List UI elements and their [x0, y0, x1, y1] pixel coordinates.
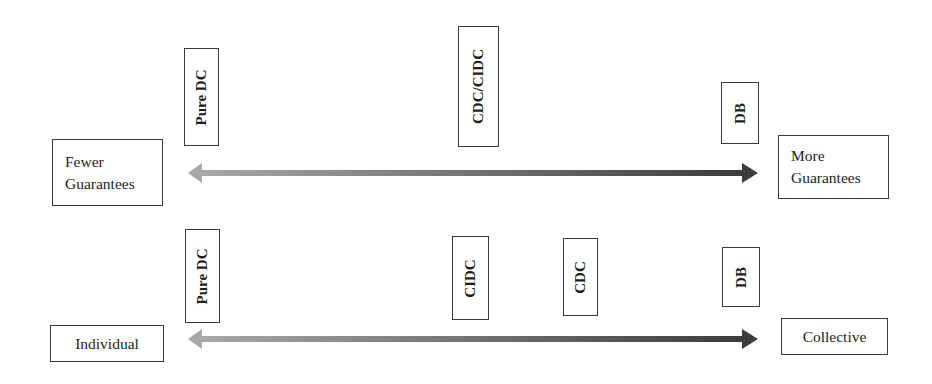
marker-db-bottom: DB	[722, 247, 760, 307]
fewer-guarantees-label: Fewer Guarantees	[52, 139, 163, 206]
collective-label: Collective	[781, 318, 888, 355]
marker-text: Pure DC	[194, 248, 211, 304]
label-text: Individual	[75, 333, 139, 355]
marker-text: DB	[732, 103, 749, 124]
marker-cdc-cidc-top: CDC/CIDC	[458, 26, 499, 147]
marker-pure-dc-bottom: Pure DC	[185, 229, 220, 323]
individual-label: Individual	[50, 325, 164, 362]
marker-text: Pure DC	[193, 69, 210, 125]
marker-db-top: DB	[721, 82, 759, 144]
marker-cdc-bottom: CDC	[563, 238, 598, 316]
marker-text: DB	[733, 267, 750, 288]
marker-pure-dc-top: Pure DC	[184, 48, 219, 146]
label-line-1: Fewer	[65, 151, 162, 173]
more-guarantees-label: More Guarantees	[778, 135, 889, 199]
top-double-arrow	[188, 163, 758, 183]
label-line-2: Guarantees	[791, 167, 888, 189]
marker-text: CIDC	[462, 259, 479, 297]
marker-text: CDC/CIDC	[470, 49, 487, 124]
marker-text: CDC	[572, 261, 589, 294]
label-text: Collective	[803, 326, 867, 348]
bottom-double-arrow	[188, 329, 758, 349]
label-line-1: More	[791, 145, 888, 167]
marker-cidc-bottom: CIDC	[452, 236, 489, 320]
label-line-2: Guarantees	[65, 173, 162, 195]
